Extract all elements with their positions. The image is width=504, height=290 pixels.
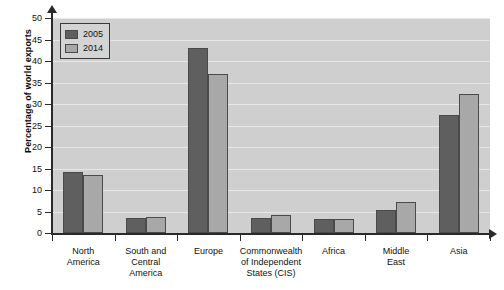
y-axis-tick-label: 5 — [18, 207, 42, 217]
y-axis-tick-label: 15 — [18, 164, 42, 174]
y-axis-title: Percentage of world exports — [23, 1, 33, 181]
x-axis-tick-mark — [240, 235, 241, 241]
x-axis-tick-mark — [365, 235, 366, 241]
gridline — [52, 83, 490, 84]
bar — [208, 74, 228, 233]
y-axis-tick-label: 50 — [18, 13, 42, 23]
y-axis-arrow-icon — [47, 5, 57, 13]
y-axis-tick-mark — [45, 61, 51, 62]
gridline — [52, 126, 490, 127]
bar — [188, 48, 208, 233]
x-axis-tick-mark — [427, 235, 428, 241]
gridline — [52, 61, 490, 62]
bar — [63, 172, 83, 233]
y-axis-tick-mark — [45, 169, 51, 170]
bar-chart: Percentage of world exports 051015202530… — [0, 0, 504, 290]
bar — [146, 217, 166, 233]
legend-label: 2014 — [83, 43, 103, 53]
y-axis-tick-mark — [45, 212, 51, 213]
y-axis-tick-label: 40 — [18, 56, 42, 66]
bar — [334, 219, 354, 233]
bar — [126, 218, 146, 233]
bar — [83, 175, 103, 233]
x-axis-tick-mark — [115, 235, 116, 241]
y-axis-tick-label: 0 — [18, 228, 42, 238]
y-axis-tick-mark — [45, 18, 51, 19]
bar — [271, 215, 291, 233]
x-axis-category-label-line: America — [109, 268, 184, 279]
plot-area — [52, 18, 490, 233]
legend: 20052014 — [60, 23, 110, 59]
x-axis-category-label-line: East — [359, 257, 434, 268]
gridline — [52, 104, 490, 105]
y-axis-tick-mark — [45, 147, 51, 148]
y-axis-tick-label: 10 — [18, 185, 42, 195]
legend-label: 2005 — [83, 29, 103, 39]
gridline — [52, 212, 490, 213]
bar — [396, 202, 416, 233]
x-axis-tick-mark — [177, 235, 178, 241]
x-axis-category-label-line: States (CIS) — [234, 268, 309, 279]
gridline — [52, 40, 490, 41]
x-axis-category-label-line: Asia — [421, 246, 496, 257]
gridline — [52, 190, 490, 191]
bar — [314, 219, 334, 233]
x-axis-tick-mark — [490, 235, 491, 241]
gridline — [52, 147, 490, 148]
legend-swatch — [65, 44, 78, 53]
x-axis-category-label: Asia — [421, 246, 496, 257]
bar — [439, 115, 459, 233]
x-axis-category-label-line: of Independent — [234, 257, 309, 268]
bar — [376, 210, 396, 233]
x-axis-tick-mark — [302, 235, 303, 241]
y-axis-line — [51, 12, 53, 234]
y-axis-tick-label: 35 — [18, 78, 42, 88]
y-axis-tick-label: 45 — [18, 35, 42, 45]
x-axis-line — [51, 233, 491, 235]
y-axis-tick-label: 20 — [18, 142, 42, 152]
x-axis-category-label-line: Central — [109, 257, 184, 268]
legend-swatch — [65, 30, 78, 39]
y-axis-tick-mark — [45, 104, 51, 105]
x-axis-tick-mark — [52, 235, 53, 241]
y-axis-tick-mark — [45, 190, 51, 191]
legend-item: 2014 — [65, 41, 103, 55]
y-axis-tick-mark — [45, 233, 51, 234]
bar — [251, 218, 271, 233]
gridline — [52, 169, 490, 170]
y-axis-tick-label: 25 — [18, 121, 42, 131]
y-axis-tick-mark — [45, 40, 51, 41]
y-axis-tick-mark — [45, 83, 51, 84]
legend-item: 2005 — [65, 27, 103, 41]
y-axis-tick-label: 30 — [18, 99, 42, 109]
bar — [459, 94, 479, 233]
gridline — [52, 18, 490, 19]
y-axis-tick-mark — [45, 126, 51, 127]
